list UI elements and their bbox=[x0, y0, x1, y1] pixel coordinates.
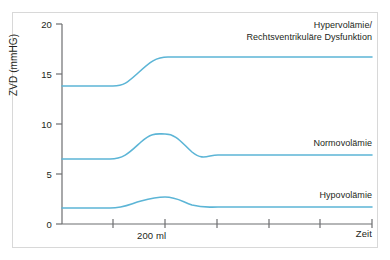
y-tick-label-20: 20 bbox=[30, 19, 52, 30]
series-label-normovolaemie: Normovolämie bbox=[313, 138, 372, 150]
x-axis-annotation-200ml: 200 ml bbox=[137, 230, 166, 241]
series-label-hypervolaemie-line2: Rechtsventrikuläre Dysfunktion bbox=[246, 32, 372, 42]
series-label-hypervolaemie: Hypervolämie/ Rechtsventrikuläre Dysfunk… bbox=[246, 20, 372, 43]
y-axis-ticks bbox=[56, 24, 62, 224]
x-axis-title: Zeit bbox=[356, 228, 372, 239]
y-tick-label-10: 10 bbox=[30, 119, 52, 130]
y-tick-label-0: 0 bbox=[30, 219, 52, 230]
series-line-hypervolaemie bbox=[62, 57, 372, 86]
chart-figure: ZVD (mmHG) 20 15 10 5 0 200 ml Zeit Hype… bbox=[0, 0, 390, 260]
series-label-hypovolaemie: Hypovolämie bbox=[319, 190, 372, 202]
y-tick-label-15: 15 bbox=[30, 69, 52, 80]
series-label-hypervolaemie-line1: Hypervolämie/ bbox=[314, 20, 372, 30]
y-tick-label-5: 5 bbox=[30, 169, 52, 180]
y-axis-title: ZVD (mmHG) bbox=[8, 74, 19, 96]
